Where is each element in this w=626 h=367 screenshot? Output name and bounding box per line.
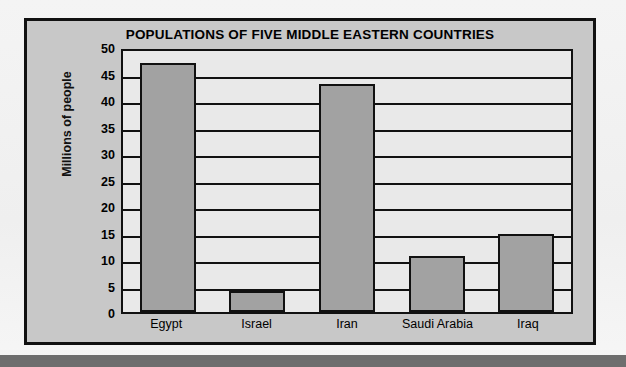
y-tick-label: 45: [71, 69, 115, 82]
chart-title: POPULATIONS OF FIVE MIDDLE EASTERN COUNT…: [27, 27, 593, 42]
x-tick-label-iraq: Iraq: [483, 317, 573, 331]
y-tick-label: 20: [71, 202, 115, 215]
bar-egypt: [140, 63, 196, 312]
y-tick-label: 15: [71, 228, 115, 241]
bar-slot: [481, 51, 571, 312]
x-tick-label-egypt: Egypt: [121, 317, 211, 331]
bar-slot: [213, 51, 303, 312]
page-edge-band: [0, 355, 626, 367]
y-tick-label: 25: [71, 175, 115, 188]
y-tick-label: 0: [71, 308, 115, 321]
bar-slot: [392, 51, 482, 312]
bar-israel: [229, 291, 285, 312]
x-tick-label-saudi-arabia: Saudi Arabia: [392, 317, 482, 331]
bar-slot: [302, 51, 392, 312]
plot-area: [121, 49, 573, 314]
y-tick-label: 50: [71, 43, 115, 56]
y-tick-label: 40: [71, 96, 115, 109]
x-tick-label-israel: Israel: [211, 317, 301, 331]
x-axis-tick-labels: EgyptIsraelIranSaudi ArabiaIraq: [121, 317, 573, 331]
x-tick-label-iran: Iran: [302, 317, 392, 331]
chart-figure: POPULATIONS OF FIVE MIDDLE EASTERN COUNT…: [24, 18, 596, 345]
bar-saudi-arabia: [409, 256, 465, 312]
y-tick-label: 5: [71, 281, 115, 294]
y-tick-label: 10: [71, 255, 115, 268]
bar-iran: [319, 84, 375, 312]
y-tick-label: 30: [71, 149, 115, 162]
bar-iraq: [498, 234, 554, 312]
scanned-page: POPULATIONS OF FIVE MIDDLE EASTERN COUNT…: [0, 0, 626, 367]
y-axis-tick-labels: 05101520253035404550: [71, 49, 115, 314]
bar-series: [123, 51, 571, 312]
y-tick-label: 35: [71, 122, 115, 135]
bar-slot: [123, 51, 213, 312]
